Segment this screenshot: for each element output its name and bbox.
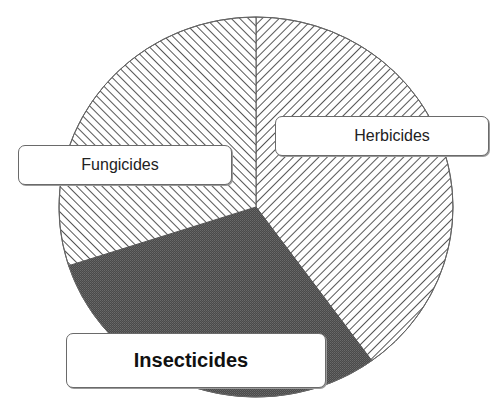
fungicides-label-box: Fungicides <box>18 145 232 185</box>
herbicides-label-box: Herbicides <box>275 116 489 156</box>
insecticides-label: Insecticides <box>134 349 249 372</box>
herbicides-label: Herbicides <box>354 127 430 145</box>
insecticides-label-box: Insecticides <box>66 333 326 388</box>
fungicides-label: Fungicides <box>81 156 158 174</box>
